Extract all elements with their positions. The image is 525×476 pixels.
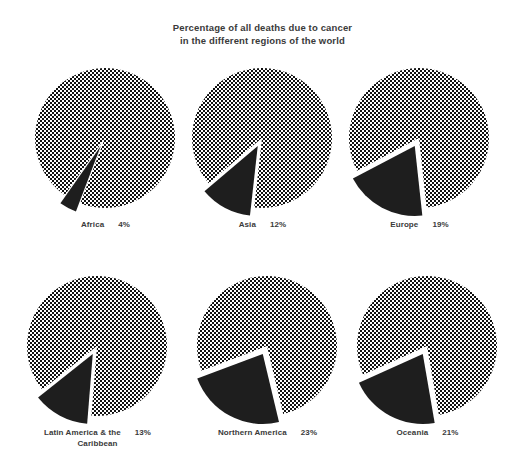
pie-value-label-africa: 4% — [118, 220, 130, 229]
pie-panel-asia: Asia12% — [175, 58, 350, 231]
pie-caption-northern-america: Northern America23% — [180, 428, 355, 439]
pie-value-label-oceania: 21% — [442, 428, 458, 437]
pie-panel-latin-america: Latin America & the13% Caribbean — [10, 266, 185, 449]
pie-chart-europe — [332, 58, 507, 218]
pie-region-label-latin-america: Latin America & the — [44, 428, 121, 437]
pie-region-label-africa: Africa — [81, 220, 104, 229]
pie-chart-northern-america — [180, 266, 355, 426]
pie-panel-africa: Africa4% — [18, 58, 193, 231]
pie-value-label-europe: 19% — [432, 220, 448, 229]
pie-region-label-latin-america-line2: Caribbean — [10, 439, 185, 450]
pie-caption-latin-america: Latin America & the13% Caribbean — [10, 428, 185, 449]
pie-slices-europe — [349, 68, 489, 216]
pie-slices-northern-america — [197, 276, 337, 424]
pie-panel-europe: Europe19% — [332, 58, 507, 231]
pie-panel-grid: Africa4% Asia12% — [0, 58, 525, 476]
cancer-deaths-pie-figure: Percentage of all deaths due to cancer i… — [0, 0, 525, 476]
pie-chart-asia — [175, 58, 350, 218]
pie-caption-europe: Europe19% — [332, 220, 507, 231]
pie-chart-latin-america — [10, 266, 185, 426]
pie-value-label-northern-america: 23% — [301, 428, 317, 437]
pie-slices-oceania — [357, 276, 497, 424]
pie-slices-asia — [192, 68, 332, 216]
pie-caption-asia: Asia12% — [175, 220, 350, 231]
pie-chart-africa — [18, 58, 193, 218]
pie-region-label-asia: Asia — [239, 220, 256, 229]
pie-chart-oceania — [340, 266, 515, 426]
pie-value-label-asia: 12% — [270, 220, 286, 229]
pie-value-label-latin-america: 13% — [135, 428, 151, 437]
pie-region-label-oceania: Oceania — [396, 428, 428, 437]
pie-panel-oceania: Oceania21% — [340, 266, 515, 439]
pie-caption-africa: Africa4% — [18, 220, 193, 231]
chart-title: Percentage of all deaths due to cancer i… — [0, 22, 525, 47]
pie-caption-oceania: Oceania21% — [340, 428, 515, 439]
slice-other-africa — [35, 68, 175, 208]
pie-panel-northern-america: Northern America23% — [180, 266, 355, 439]
pie-region-label-europe: Europe — [390, 220, 418, 229]
pie-region-label-northern-america: Northern America — [218, 428, 287, 437]
pie-slices-latin-america — [27, 276, 167, 424]
pie-slices-africa — [35, 68, 175, 211]
